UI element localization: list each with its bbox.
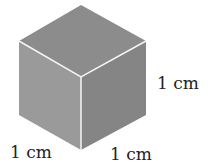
cube-diagram: 1 cm 1 cm 1 cm — [0, 0, 209, 165]
label-bottom-right-edge: 1 cm — [110, 144, 152, 164]
label-right-edge: 1 cm — [157, 73, 199, 93]
label-bottom-left-edge: 1 cm — [10, 142, 52, 162]
